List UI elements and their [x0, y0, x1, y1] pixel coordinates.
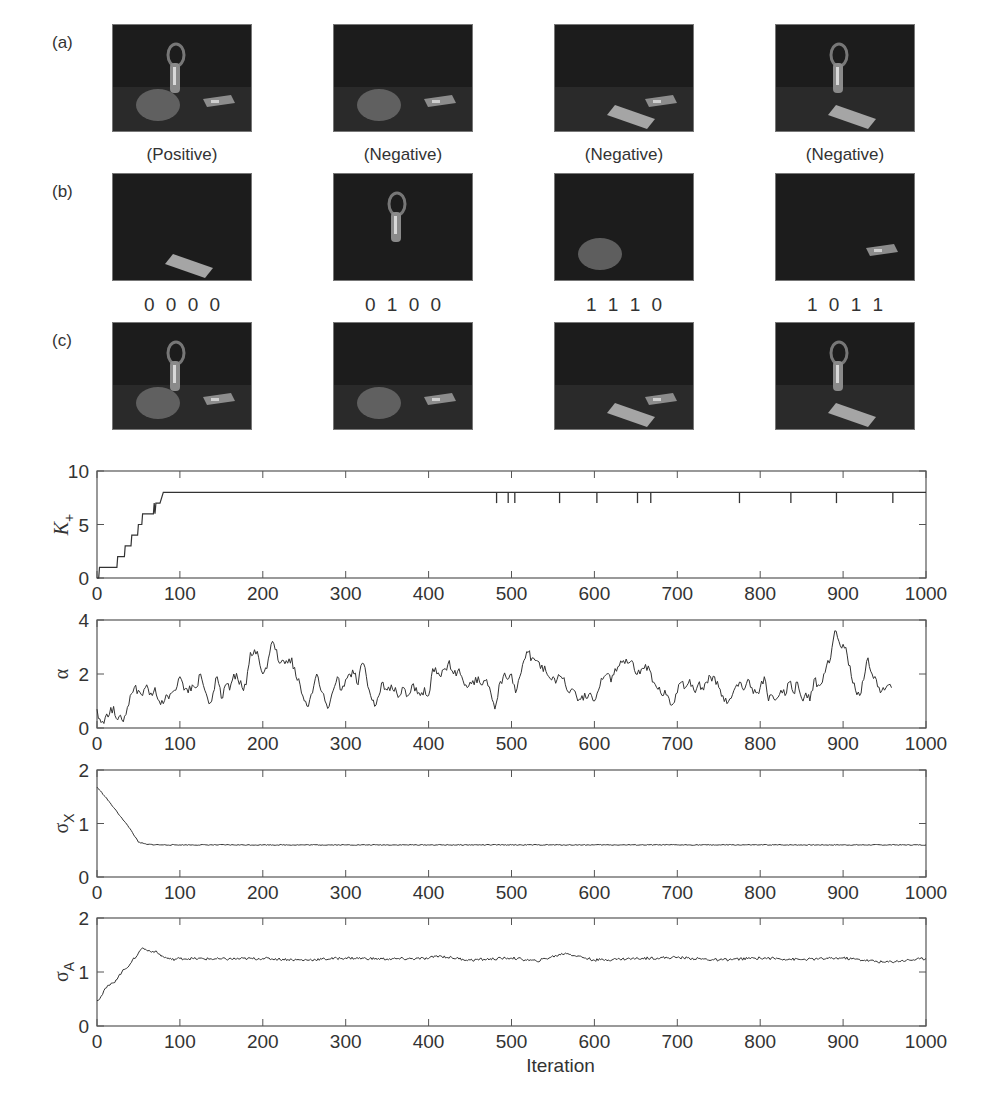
x-tick-label: 400: [413, 882, 445, 903]
x-tick-label: 1000: [905, 733, 947, 754]
x-tick-label: 800: [744, 733, 776, 754]
y-tick-label: 0: [78, 867, 89, 888]
x-tick-label: 900: [827, 882, 859, 903]
x-tick-label: 100: [164, 882, 196, 903]
y-tick-label: 1: [78, 962, 89, 983]
x-tick-label: 1000: [905, 583, 947, 604]
x-tick-label: 1000: [905, 882, 947, 903]
sigma-a-trace: [97, 948, 926, 1001]
y-axis-label-2: α: [50, 668, 72, 679]
x-tick-label: 800: [744, 882, 776, 903]
x-tick-label: 500: [496, 583, 528, 604]
x-tick-label: 800: [744, 1031, 776, 1052]
y-tick-label: 4: [78, 610, 89, 631]
x-tick-label: 300: [330, 583, 362, 604]
x-tick-label: 0: [92, 583, 103, 604]
x-tick-label: 200: [247, 583, 279, 604]
x-tick-label: 0: [92, 1031, 103, 1052]
x-tick-label: 100: [164, 583, 196, 604]
plot-frame-1: [97, 471, 926, 578]
x-tick-label: 600: [579, 882, 611, 903]
x-tick-label: 200: [247, 882, 279, 903]
x-tick-label: 500: [496, 1031, 528, 1052]
x-tick-label: 700: [661, 882, 693, 903]
x-tick-label: 500: [496, 882, 528, 903]
y-tick-label: 10: [68, 461, 89, 482]
x-tick-label: 700: [661, 583, 693, 604]
x-tick-label: 900: [827, 1031, 859, 1052]
plot-frame-3: [97, 770, 926, 877]
x-tick-label: 300: [330, 733, 362, 754]
x-tick-label: 200: [247, 1031, 279, 1052]
x-tick-label: 400: [413, 733, 445, 754]
y-tick-label: 5: [78, 515, 89, 536]
x-tick-label: 800: [744, 583, 776, 604]
x-axis-label: Iteration: [526, 1055, 595, 1076]
x-tick-label: 1000: [905, 1031, 947, 1052]
y-tick-label: 0: [78, 568, 89, 589]
x-tick-label: 100: [164, 733, 196, 754]
sigma-x-trace: [97, 787, 926, 845]
y-axis-label-1: K+: [50, 514, 77, 537]
trace-plots: 010020030040050060070080090010000510K+01…: [0, 0, 981, 1098]
alpha-trace: [97, 631, 892, 724]
y-tick-label: 0: [78, 718, 89, 739]
y-tick-label: 2: [78, 760, 89, 781]
x-tick-label: 600: [579, 733, 611, 754]
x-tick-label: 600: [579, 1031, 611, 1052]
x-tick-label: 400: [413, 583, 445, 604]
y-axis-label-3: σX: [50, 813, 77, 834]
x-tick-label: 100: [164, 1031, 196, 1052]
x-tick-label: 900: [827, 733, 859, 754]
x-tick-label: 300: [330, 882, 362, 903]
x-tick-label: 0: [92, 882, 103, 903]
plot-frame-4: [97, 918, 926, 1026]
x-tick-label: 300: [330, 1031, 362, 1052]
x-tick-label: 400: [413, 1031, 445, 1052]
x-tick-label: 500: [496, 733, 528, 754]
y-tick-label: 0: [78, 1016, 89, 1037]
x-tick-label: 200: [247, 733, 279, 754]
y-tick-label: 2: [78, 908, 89, 929]
x-tick-label: 700: [661, 733, 693, 754]
y-axis-label-4: σA: [50, 961, 77, 982]
x-tick-label: 0: [92, 733, 103, 754]
k-plus-trace: [97, 492, 926, 578]
x-tick-label: 700: [661, 1031, 693, 1052]
x-tick-label: 900: [827, 583, 859, 604]
x-tick-label: 600: [579, 583, 611, 604]
y-tick-label: 2: [78, 664, 89, 685]
y-tick-label: 1: [78, 814, 89, 835]
